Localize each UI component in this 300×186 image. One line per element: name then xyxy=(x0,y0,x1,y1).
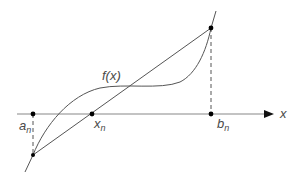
x-axis-arrow-icon xyxy=(264,110,274,118)
curve-label: f(x) xyxy=(102,68,121,83)
x-axis-label: x xyxy=(279,106,287,121)
diagram-canvas: x f(x) an xn bn xyxy=(0,0,300,186)
label-x-n-sub: n xyxy=(101,123,106,133)
label-a-n-base: a xyxy=(19,118,26,133)
secant-line xyxy=(33,28,211,155)
point-f-b-n xyxy=(209,26,214,31)
label-b-n-base: b xyxy=(217,116,224,131)
label-b-n-sub: n xyxy=(224,123,229,133)
point-a-n xyxy=(31,112,36,117)
label-a-n: an xyxy=(19,118,31,135)
point-b-n xyxy=(209,112,214,117)
function-curve xyxy=(25,11,216,172)
point-f-a-n xyxy=(31,153,35,157)
label-b-n: bn xyxy=(217,116,229,133)
label-a-n-sub: n xyxy=(26,125,31,135)
label-x-n: xn xyxy=(93,116,106,133)
